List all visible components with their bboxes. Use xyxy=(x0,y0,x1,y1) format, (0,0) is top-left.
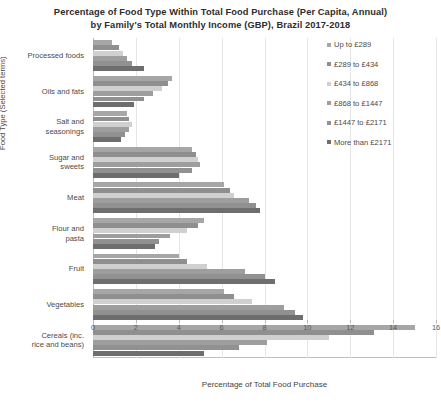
bar[interactable] xyxy=(93,182,224,187)
bar[interactable] xyxy=(93,157,198,162)
y-category-label-line: sweets xyxy=(0,162,84,171)
bar[interactable] xyxy=(93,76,172,81)
y-category-label-line: Sugar and xyxy=(0,153,84,162)
bar[interactable] xyxy=(93,61,132,66)
bar[interactable] xyxy=(93,168,192,173)
y-category-label-line: pasta xyxy=(0,234,84,243)
y-category-label: Cereals (inc.rice and beans) xyxy=(0,331,84,350)
bar[interactable] xyxy=(93,335,329,340)
legend-swatch-icon xyxy=(327,140,331,144)
bar[interactable] xyxy=(93,310,295,315)
y-category-label: Processed foods xyxy=(0,51,84,60)
y-category-label: Oils and fats xyxy=(0,87,84,96)
bar-group xyxy=(93,251,436,287)
legend-label: £868 to £1447 xyxy=(334,99,383,108)
bar[interactable] xyxy=(93,45,119,50)
legend-label: £289 to £434 xyxy=(334,60,378,69)
bar[interactable] xyxy=(93,137,121,142)
legend-label: More than £2171 xyxy=(334,138,391,147)
bar[interactable] xyxy=(93,259,187,264)
bar[interactable] xyxy=(93,269,245,274)
bar[interactable] xyxy=(93,299,252,304)
y-category-label-line: Processed foods xyxy=(0,51,84,60)
legend-item[interactable]: £1447 to £2171 xyxy=(327,118,439,127)
bar[interactable] xyxy=(93,152,196,157)
legend-item[interactable]: More than £2171 xyxy=(327,138,439,147)
bar[interactable] xyxy=(93,208,260,213)
legend-item[interactable]: Up to £289 xyxy=(327,40,439,49)
bar[interactable] xyxy=(93,218,204,223)
y-category-label-line: Meat xyxy=(0,193,84,202)
bar[interactable] xyxy=(93,254,179,259)
bar[interactable] xyxy=(93,198,249,203)
legend-swatch-icon xyxy=(327,121,331,125)
legend-swatch-icon xyxy=(327,43,331,47)
legend-item[interactable]: £434 to £868 xyxy=(327,79,439,88)
bar[interactable] xyxy=(93,188,230,193)
y-category-label: Fruit xyxy=(0,264,84,273)
y-category-label: Flour andpasta xyxy=(0,224,84,243)
bar[interactable] xyxy=(93,97,144,102)
bar[interactable] xyxy=(93,173,179,178)
legend-item[interactable]: £868 to £1447 xyxy=(327,99,439,108)
chart-title-line-2: by Family's Total Monthly Income (GBP), … xyxy=(14,19,427,32)
bar[interactable] xyxy=(93,117,129,122)
bar[interactable] xyxy=(93,162,200,167)
bar[interactable] xyxy=(93,228,187,233)
bar[interactable] xyxy=(93,234,170,239)
bar[interactable] xyxy=(93,289,224,294)
bar[interactable] xyxy=(93,81,168,86)
legend-swatch-icon xyxy=(327,82,331,86)
bar[interactable] xyxy=(93,345,239,350)
legend-label: Up to £289 xyxy=(334,40,371,49)
bar-group xyxy=(93,287,436,323)
bar[interactable] xyxy=(93,264,207,269)
bar[interactable] xyxy=(93,351,204,356)
bar[interactable] xyxy=(93,102,134,107)
bar[interactable] xyxy=(93,56,127,61)
x-tick-label: 2 xyxy=(134,323,138,332)
y-category-label-line: rice and beans) xyxy=(0,340,84,349)
bar[interactable] xyxy=(93,51,123,56)
bar[interactable] xyxy=(93,193,234,198)
y-category-label-line: Cereals (inc. xyxy=(0,331,84,340)
legend-item[interactable]: £289 to £434 xyxy=(327,60,439,69)
bar[interactable] xyxy=(93,294,234,299)
bar[interactable] xyxy=(93,122,132,127)
bar-group xyxy=(93,180,436,216)
bar[interactable] xyxy=(93,66,144,71)
x-tick-label: 8 xyxy=(262,323,266,332)
legend-label: £434 to £868 xyxy=(334,79,378,88)
bar[interactable] xyxy=(93,127,129,132)
bar[interactable] xyxy=(93,279,275,284)
bar[interactable] xyxy=(93,340,267,345)
y-category-label-line: Salt and xyxy=(0,117,84,126)
x-tick-label: 14 xyxy=(389,323,397,332)
bar[interactable] xyxy=(93,239,159,244)
bar[interactable] xyxy=(93,147,192,152)
bar[interactable] xyxy=(93,274,265,279)
bar[interactable] xyxy=(93,325,415,330)
x-axis-title: Percentage of Total Food Purchase xyxy=(93,380,436,389)
y-category-label-line: Flour and xyxy=(0,224,84,233)
bar[interactable] xyxy=(93,91,153,96)
legend: Up to £289£289 to £434£434 to £868£868 t… xyxy=(327,40,439,158)
bar[interactable] xyxy=(93,244,155,249)
y-axis-title: Food Type (Selected terms) xyxy=(0,56,7,150)
x-tick-label: 0 xyxy=(91,323,95,332)
x-tick-label: 4 xyxy=(177,323,181,332)
y-category-label: Sugar andsweets xyxy=(0,153,84,172)
bar[interactable] xyxy=(93,203,256,208)
bar[interactable] xyxy=(93,315,303,320)
legend-label: £1447 to £2171 xyxy=(334,118,387,127)
bar[interactable] xyxy=(93,223,198,228)
y-category-label: Meat xyxy=(0,193,84,202)
bar[interactable] xyxy=(93,132,125,137)
y-category-label: Salt andseasonings xyxy=(0,117,84,136)
bar[interactable] xyxy=(93,111,127,116)
bar[interactable] xyxy=(93,40,112,45)
chart-title-line-1: Percentage of Food Type Within Total Foo… xyxy=(54,7,387,17)
bar[interactable] xyxy=(93,305,284,310)
chart-title: Percentage of Food Type Within Total Foo… xyxy=(14,6,427,31)
bar[interactable] xyxy=(93,86,162,91)
